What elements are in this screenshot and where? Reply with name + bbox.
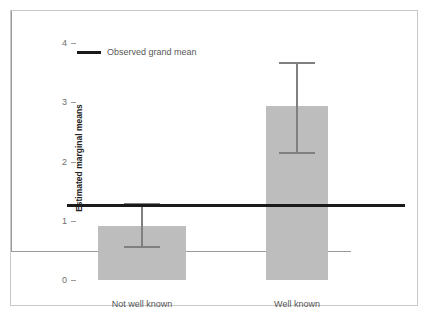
- chart-legend: Observed grand mean: [77, 47, 197, 57]
- y-tick-label: 4: [11, 38, 67, 48]
- y-tick-mark: [71, 162, 76, 163]
- x-tick-label: Not well known: [82, 299, 202, 309]
- y-axis-title: Estimated marginal means: [74, 104, 84, 212]
- error-bar-cap-lower: [124, 246, 160, 248]
- y-tick-label: 1: [11, 216, 67, 226]
- x-tick-label: Well known: [237, 299, 357, 309]
- y-tick-label: 3: [11, 97, 67, 107]
- y-tick-mark: [71, 102, 76, 103]
- y-tick-label: 2: [11, 157, 67, 167]
- y-tick-mark: [71, 221, 76, 222]
- observed-grand-mean-line: [67, 204, 405, 207]
- y-tick-mark: [71, 43, 76, 44]
- error-bar-cap-lower: [279, 152, 315, 154]
- grand-mean-line-swatch-icon: [77, 51, 101, 54]
- y-tick-mark: [71, 280, 76, 281]
- chart-frame: Estimated marginal means Observed grand …: [10, 10, 418, 306]
- y-tick-label: 0: [11, 275, 67, 285]
- error-bar-line: [141, 203, 143, 246]
- error-bar-line: [296, 62, 298, 152]
- legend-label-grand-mean: Observed grand mean: [107, 47, 197, 57]
- error-bar-cap-upper: [279, 62, 315, 64]
